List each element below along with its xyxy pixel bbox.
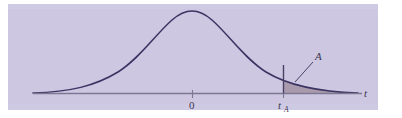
critical-value-subscript: A <box>283 105 289 114</box>
area-label: A <box>314 50 322 62</box>
t-distribution-figure: A 0 t A t <box>0 0 402 118</box>
figure-container: A 0 t A t <box>0 0 402 118</box>
origin-tick-label: 0 <box>189 99 195 111</box>
panel-scan-shade-top <box>8 4 378 9</box>
